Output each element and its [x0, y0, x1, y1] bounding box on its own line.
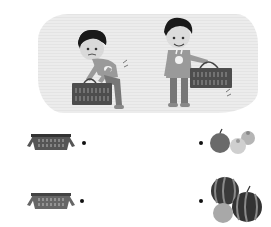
boy-light-basket-figure — [160, 14, 236, 112]
boy-heavy-basket-figure — [68, 27, 140, 113]
match-dot-left-2[interactable] — [80, 199, 84, 203]
match-dot-left-1[interactable] — [82, 141, 86, 145]
basket-2-icon — [27, 191, 75, 211]
match-dot-right-1[interactable] — [199, 141, 203, 145]
basket-1-icon — [27, 132, 75, 152]
apple-oranges-icon — [208, 128, 260, 156]
watermelons-melon-icon — [207, 175, 263, 227]
match-dot-right-2[interactable] — [199, 199, 203, 203]
